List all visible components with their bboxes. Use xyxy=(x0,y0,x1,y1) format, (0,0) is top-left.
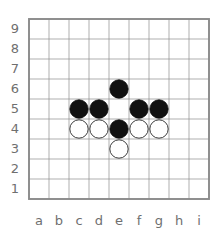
column-label-i: i xyxy=(197,213,201,228)
row-label-2: 2 xyxy=(11,161,19,176)
stone-black-e4[interactable] xyxy=(110,120,128,138)
stone-black-e6[interactable] xyxy=(110,80,128,98)
column-label-a: a xyxy=(35,213,43,228)
row-label-6: 6 xyxy=(11,81,19,96)
row-label-1: 1 xyxy=(11,181,19,196)
column-label-c: c xyxy=(75,213,82,228)
stone-white-c4[interactable] xyxy=(70,120,88,138)
row-label-9: 9 xyxy=(11,21,19,36)
row-label-7: 7 xyxy=(11,61,19,76)
row-label-5: 5 xyxy=(11,101,19,116)
row-axis-labels: 987654321 xyxy=(11,21,19,196)
board-outline xyxy=(29,19,209,199)
board-grid xyxy=(29,19,209,199)
go-board-svg[interactable]: 987654321 abcdefghi xyxy=(0,0,224,242)
board-border xyxy=(29,19,209,199)
column-label-d: d xyxy=(95,213,103,228)
stone-black-f5[interactable] xyxy=(130,100,148,118)
column-label-e: e xyxy=(115,213,123,228)
stone-black-d5[interactable] xyxy=(90,100,108,118)
stone-black-g5[interactable] xyxy=(150,100,168,118)
column-axis-labels: abcdefghi xyxy=(35,213,201,228)
column-label-g: g xyxy=(155,213,163,228)
stone-white-g4[interactable] xyxy=(150,120,168,138)
row-label-8: 8 xyxy=(11,41,19,56)
stone-white-d4[interactable] xyxy=(90,120,108,138)
stone-black-c5[interactable] xyxy=(70,100,88,118)
stone-white-e3[interactable] xyxy=(110,140,128,158)
column-label-h: h xyxy=(175,213,183,228)
column-label-f: f xyxy=(137,213,142,228)
column-label-b: b xyxy=(55,213,63,228)
row-label-4: 4 xyxy=(11,121,19,136)
stone-white-f4[interactable] xyxy=(130,120,148,138)
row-label-3: 3 xyxy=(11,141,19,156)
go-board-figure: 987654321 abcdefghi xyxy=(0,0,224,242)
